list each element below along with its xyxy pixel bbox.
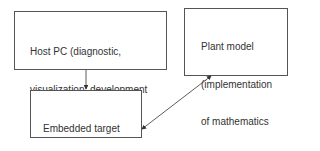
plant-model-line-1: Plant model [201,41,272,54]
plant-model-line-3: of mathematics [201,116,272,129]
host-pc-line-1: Host PC (diagnostic, [30,46,147,59]
embedded-target-line-1: Embedded target [43,123,122,136]
embedded-target-label: Embedded target (control system to be te… [43,98,122,151]
plant-model-line-2: (implementation [201,79,272,92]
plant-model-label: Plant model (implementation of mathemati… [201,16,272,151]
